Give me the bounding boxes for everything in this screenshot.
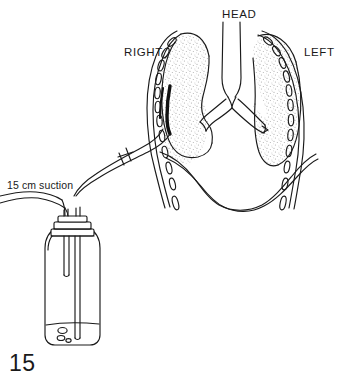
- suction-tube: [0, 192, 68, 217]
- label-right: RIGHT: [124, 46, 163, 58]
- rib-segment-floating: [171, 196, 180, 211]
- rib-segment-floating: [279, 196, 287, 211]
- rib-segment: [168, 178, 176, 191]
- figure-number: 15: [9, 350, 36, 377]
- rib-segment: [154, 87, 160, 99]
- label-left: LEFT: [304, 46, 335, 58]
- label-head: HEAD: [222, 8, 256, 20]
- bottle-stopper: [51, 216, 94, 236]
- chest-drainage-illustration: [0, 0, 348, 384]
- rib-segment: [283, 161, 290, 174]
- figure-container: HEAD RIGHT LEFT 15 cm suction 15: [0, 0, 348, 384]
- trachea: [222, 22, 241, 97]
- label-suction-pressure: 15 cm suction: [7, 179, 73, 191]
- rib-segment: [165, 162, 173, 175]
- drainage-bottle: [45, 207, 100, 345]
